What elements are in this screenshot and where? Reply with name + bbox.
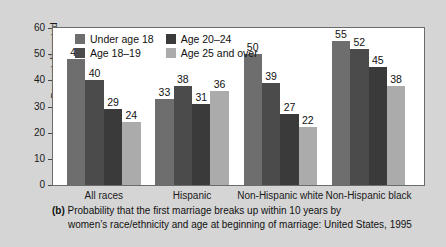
figure-panel-b: Percent disrupted 0102030405060 48402924…	[0, 0, 446, 247]
caption-line2-text: women’s race/ethnicity and age at beginn…	[52, 218, 432, 232]
legend-swatch-icon	[75, 48, 85, 58]
legend-swatch-icon	[166, 48, 176, 58]
bar[interactable]	[299, 127, 317, 185]
y-tick-label: 0	[25, 180, 45, 190]
y-tick-label: 30	[25, 102, 45, 112]
bar-value-label: 36	[207, 79, 233, 90]
bar[interactable]	[210, 91, 228, 185]
bar[interactable]	[122, 122, 140, 185]
legend-entry: Age 20–24	[166, 34, 258, 45]
y-tick-label: 60	[25, 23, 45, 33]
legend-entry: Age 18–19	[75, 48, 154, 59]
bar[interactable]	[192, 104, 210, 185]
caption-line1-text: Probability that the first marriage brea…	[65, 205, 341, 216]
bar-value-label: 22	[295, 115, 321, 126]
bar-column[interactable]: 27	[280, 28, 298, 185]
y-tick-label: 10	[25, 154, 45, 164]
bar-column[interactable]: 38	[387, 28, 405, 185]
legend-label: Age 18–19	[90, 48, 141, 59]
y-tick-label: 50	[25, 49, 45, 59]
y-tick-label: 40	[25, 75, 45, 85]
chart-legend: Under age 18Age 20–24Age 18–19Age 25 and…	[75, 34, 258, 58]
bar-column[interactable]: 55	[332, 28, 350, 185]
legend-label: Age 20–24	[181, 34, 232, 45]
legend-entry: Under age 18	[75, 34, 154, 45]
legend-swatch-icon	[75, 34, 85, 44]
bar[interactable]	[369, 67, 387, 185]
legend-swatch-icon	[166, 34, 176, 44]
x-tick-label: Non-Hispanic black	[309, 191, 429, 201]
y-tick-label: 20	[25, 128, 45, 138]
bar[interactable]	[350, 49, 368, 185]
plot-frame: 48402924333831365039272255524538 Under a…	[52, 27, 425, 186]
bar-column[interactable]: 45	[369, 28, 387, 185]
bar[interactable]	[262, 83, 280, 185]
legend-label: Age 25 and over	[181, 48, 258, 59]
bar[interactable]	[85, 80, 103, 185]
bar-value-label: 24	[118, 110, 144, 121]
legend-entry: Age 25 and over	[166, 48, 258, 59]
figure-caption: (b) Probability that the first marriage …	[52, 204, 432, 232]
bar-group: 55524538	[332, 28, 406, 185]
caption-panel-label: (b)	[52, 205, 65, 216]
legend-label: Under age 18	[90, 34, 154, 45]
bar-column[interactable]: 22	[299, 28, 317, 185]
bar[interactable]	[155, 99, 173, 185]
bar[interactable]	[387, 86, 405, 185]
bar[interactable]	[332, 41, 350, 185]
bar-column[interactable]: 52	[350, 28, 368, 185]
bar-value-label: 38	[383, 74, 409, 85]
bar-group-bars: 55524538	[332, 28, 406, 185]
